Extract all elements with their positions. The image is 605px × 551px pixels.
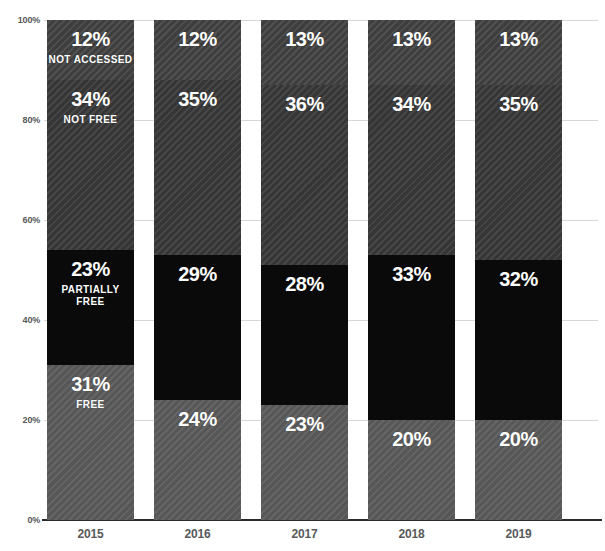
segment-not-accessed-2015[interactable]: 12%NOT ACCESSED: [47, 20, 134, 80]
segment-partially-free-2018[interactable]: 33%: [368, 255, 455, 420]
segment-partially-free-2016[interactable]: 29%: [154, 255, 241, 400]
y-tick-label: 0%: [0, 516, 40, 525]
segment-free-2017[interactable]: 23%: [261, 405, 348, 520]
segment-not-free-2018[interactable]: 34%: [368, 85, 455, 255]
segment-value-label: 35%: [499, 94, 538, 114]
y-tick-label: 40%: [0, 316, 40, 325]
plot-area: 100%80%60%40%20%0% 12%NOT ACCESSED34%NOT…: [0, 0, 605, 551]
x-tick-label-2017: 2017: [261, 527, 348, 541]
segment-value-label: 31%: [71, 374, 110, 394]
segment-value-label: 28%: [285, 274, 324, 294]
segment-value-label: 33%: [392, 264, 431, 284]
segment-value-label: 34%: [392, 94, 431, 114]
segment-value-label: 13%: [285, 29, 324, 49]
segment-value-label: 23%: [71, 259, 110, 279]
bar-2015[interactable]: 12%NOT ACCESSED34%NOT FREE23%PARTIALLY F…: [47, 20, 134, 520]
segment-value-label: 20%: [392, 429, 431, 449]
segment-value-label: 32%: [499, 269, 538, 289]
bar-2019[interactable]: 13%35%32%20%: [475, 20, 562, 520]
x-tick-label-2015: 2015: [47, 527, 134, 541]
segment-value-label: 12%: [178, 29, 217, 49]
stacked-bar-chart: 100%80%60%40%20%0% 12%NOT ACCESSED34%NOT…: [0, 0, 605, 551]
bar-2017[interactable]: 13%36%28%23%: [261, 20, 348, 520]
segment-partially-free-2015[interactable]: 23%PARTIALLY FREE: [47, 250, 134, 365]
segment-series-label: NOT FREE: [64, 114, 118, 126]
segment-value-label: 34%: [71, 89, 110, 109]
segment-not-free-2016[interactable]: 35%: [154, 80, 241, 255]
segment-value-label: 35%: [178, 89, 217, 109]
segment-series-label: PARTIALLY FREE: [47, 284, 134, 307]
segment-free-2019[interactable]: 20%: [475, 420, 562, 520]
segment-free-2015[interactable]: 31%FREE: [47, 365, 134, 520]
segment-value-label: 29%: [178, 264, 217, 284]
segment-value-label: 23%: [285, 414, 324, 434]
segment-partially-free-2019[interactable]: 32%: [475, 260, 562, 420]
y-tick-label: 60%: [0, 216, 40, 225]
segment-not-free-2017[interactable]: 36%: [261, 85, 348, 265]
segment-partially-free-2017[interactable]: 28%: [261, 265, 348, 405]
x-tick-label-2016: 2016: [154, 527, 241, 541]
segment-series-label: FREE: [76, 399, 104, 411]
segment-value-label: 20%: [499, 429, 538, 449]
bar-2018[interactable]: 13%34%33%20%: [368, 20, 455, 520]
segment-value-label: 36%: [285, 94, 324, 114]
y-tick-label: 100%: [0, 16, 40, 25]
y-tick-label: 80%: [0, 116, 40, 125]
segment-value-label: 13%: [499, 29, 538, 49]
y-tick-label: 20%: [0, 416, 40, 425]
segment-value-label: 24%: [178, 409, 217, 429]
segment-value-label: 12%: [71, 29, 110, 49]
x-tick-label-2018: 2018: [368, 527, 455, 541]
segment-free-2018[interactable]: 20%: [368, 420, 455, 520]
segment-value-label: 13%: [392, 29, 431, 49]
segment-series-label: NOT ACCESSED: [49, 54, 133, 66]
segment-not-accessed-2017[interactable]: 13%: [261, 20, 348, 85]
segment-not-free-2015[interactable]: 34%NOT FREE: [47, 80, 134, 250]
segment-not-free-2019[interactable]: 35%: [475, 85, 562, 260]
segment-free-2016[interactable]: 24%: [154, 400, 241, 520]
segment-not-accessed-2018[interactable]: 13%: [368, 20, 455, 85]
x-tick-label-2019: 2019: [475, 527, 562, 541]
segment-not-accessed-2016[interactable]: 12%: [154, 20, 241, 80]
bar-2016[interactable]: 12%35%29%24%: [154, 20, 241, 520]
segment-not-accessed-2019[interactable]: 13%: [475, 20, 562, 85]
